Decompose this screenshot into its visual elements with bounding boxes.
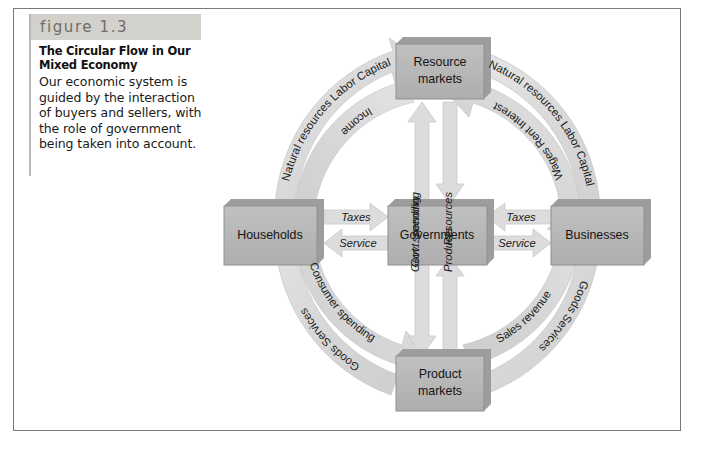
cross-arrow-resource-to-governments xyxy=(436,102,464,204)
figure-number-label: figure 1.3 xyxy=(40,18,128,36)
node-label-businesses: Businesses xyxy=(565,228,628,242)
node-label-resource-markets-line2: markets xyxy=(418,72,462,86)
figure-title: The Circular Flow in Our Mixed Economy xyxy=(39,44,199,72)
node-label-product-markets-line1: Product xyxy=(419,367,462,381)
flow-label-products: Products xyxy=(442,227,454,272)
circular-flow-diagram: Resource markets Households Governments xyxy=(200,14,675,426)
node-label-households: Households xyxy=(237,228,302,242)
flow-label-taxes-businesses: Taxes xyxy=(506,211,536,223)
diagram-nodes: Resource markets Households Governments xyxy=(224,37,651,411)
node-label-resource-markets-line1: Resource xyxy=(413,55,466,69)
flow-label-service-households: Service xyxy=(339,237,376,249)
node-resource-markets[interactable]: Resource markets xyxy=(396,37,491,99)
flow-label-govt-spending-product: Govt. spending xyxy=(409,196,421,272)
flow-label-taxes-households: Taxes xyxy=(341,211,371,223)
figure-root: figure 1.3 The Circular Flow in Our Mixe… xyxy=(0,0,712,453)
node-product-markets[interactable]: Product markets xyxy=(396,349,491,411)
cross-arrow-governments-to-resource xyxy=(408,102,436,204)
node-businesses[interactable]: Businesses xyxy=(551,199,651,265)
node-label-product-markets-line2: markets xyxy=(418,384,462,398)
node-households[interactable]: Households xyxy=(224,199,324,265)
node-governments[interactable]: Governments xyxy=(388,199,494,265)
flow-label-service-businesses: Service xyxy=(498,237,535,249)
figure-caption-block: figure 1.3 The Circular Flow in Our Mixe… xyxy=(29,14,201,176)
figure-description: Our economic system is guided by the int… xyxy=(39,74,202,152)
